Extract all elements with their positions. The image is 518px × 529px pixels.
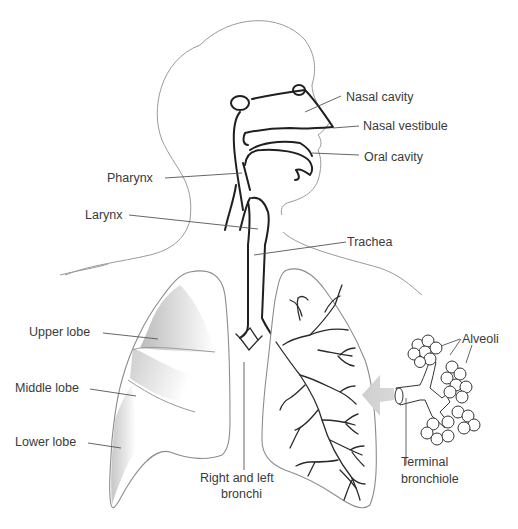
label-bronchi-line1: Right and left xyxy=(200,471,274,485)
alveoli-cluster xyxy=(395,335,480,445)
alveolus-group-top xyxy=(408,335,442,368)
label-upper-lobe: Upper lobe xyxy=(29,325,90,339)
left-lung xyxy=(262,269,376,508)
trachea xyxy=(236,245,276,350)
label-bronchi-line2: bronchi xyxy=(221,487,262,501)
label-nasal-vestibule: Nasal vestibule xyxy=(363,119,448,133)
respiratory-system-diagram: Nasal cavity Nasal vestibule Oral cavity… xyxy=(0,0,518,529)
label-lower-lobe: Lower lobe xyxy=(15,435,76,449)
left-shoulder-line xyxy=(60,264,108,275)
label-nasal-cavity: Nasal cavity xyxy=(346,90,414,104)
label-larynx: Larynx xyxy=(85,208,123,222)
label-middle-lobe: Middle lobe xyxy=(15,381,79,395)
label-trachea: Trachea xyxy=(347,235,392,249)
label-alveoli: Alveoli xyxy=(462,332,499,346)
label-terminal-line2: bronchiole xyxy=(401,472,459,486)
label-oral-cavity: Oral cavity xyxy=(364,150,424,164)
label-terminal-line1: Terminal xyxy=(401,455,448,469)
alveolus-group-middle xyxy=(441,361,472,403)
upper-airway xyxy=(225,85,333,245)
label-pharynx: Pharynx xyxy=(107,171,154,185)
